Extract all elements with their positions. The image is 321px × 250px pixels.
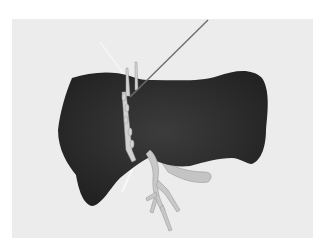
liver-3d-render bbox=[0, 0, 321, 250]
